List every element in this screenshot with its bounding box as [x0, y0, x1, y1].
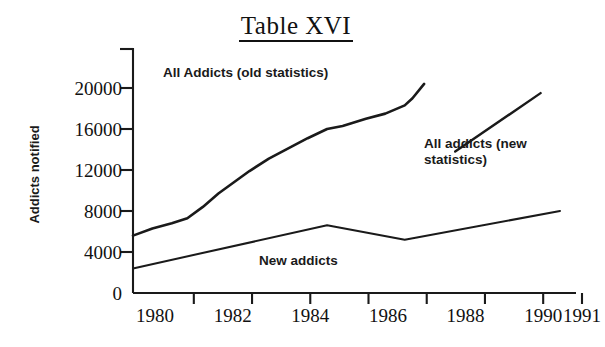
annotation-new-addicts: New addicts: [259, 253, 338, 269]
series-all-addicts-old: [133, 84, 424, 236]
x-tick-label: 1982: [198, 306, 268, 325]
axis-lines: [133, 48, 576, 293]
x-tick-label: 1984: [275, 306, 345, 325]
x-tick-label: 1988: [431, 306, 501, 325]
series-new-addicts: [133, 211, 560, 268]
x-axis-ticks: [194, 293, 582, 304]
annotation-all-addicts-old: All Addicts (old statistics): [163, 65, 328, 81]
annotation-all-addicts-new: All addicts (new statistics): [424, 136, 527, 167]
x-tick-label: 1991: [547, 306, 605, 325]
y-tick-label: 0: [48, 284, 122, 303]
y-tick-label: 4000: [48, 243, 122, 262]
chart-title-text: Table XVI: [239, 13, 353, 42]
y-tick-label: 16000: [48, 120, 122, 139]
y-tick-label: 20000: [48, 79, 122, 98]
y-tick-label: 8000: [48, 202, 122, 221]
x-tick-label: 1986: [353, 306, 423, 325]
y-axis-tick-labels: 040008000120001600020000: [34, 0, 122, 347]
x-tick-label: 1980: [120, 306, 190, 325]
y-tick-label: 12000: [48, 161, 122, 180]
